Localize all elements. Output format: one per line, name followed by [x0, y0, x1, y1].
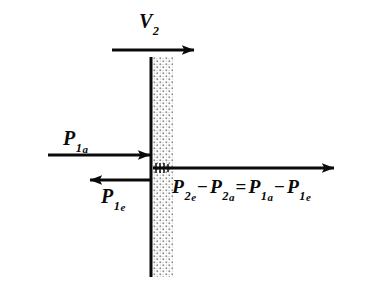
equation-minus-1: − — [195, 176, 210, 197]
reflected-momentum-sub2: e — [120, 201, 125, 213]
velocity-label: V2 — [139, 11, 159, 35]
equation-p2a-base: P — [210, 176, 222, 197]
equation-p1a-sub: 1 — [261, 189, 267, 203]
incident-momentum-label: P1a — [63, 128, 87, 152]
reflected-momentum-base: P — [101, 185, 113, 207]
equation-p2e-base: P — [172, 176, 184, 197]
wall-line — [150, 57, 153, 277]
incident-momentum-base: P — [63, 127, 75, 149]
equation-p1e-sub2: e — [306, 191, 311, 203]
velocity-label-base: V — [139, 10, 152, 32]
equation-minus-2: − — [272, 176, 287, 197]
diagram-canvas — [0, 0, 378, 287]
equation-p2e-sub: 2 — [184, 189, 190, 203]
equation-equals: = — [234, 176, 249, 197]
reflected-momentum-label: P1e — [101, 186, 124, 210]
equation-p1a-sub2: a — [268, 191, 274, 203]
equation-p2e-sub2: e — [191, 191, 196, 203]
equation-p2a-sub2: a — [229, 191, 235, 203]
velocity-label-sub: 2 — [153, 24, 159, 38]
momentum-equation: P2e−P2a=P1a−P1e — [172, 177, 310, 200]
equation-p1e-sub: 1 — [299, 189, 305, 203]
incident-momentum-sub2: a — [82, 143, 88, 155]
equation-p2a-sub: 2 — [222, 189, 228, 203]
equation-p1e-base: P — [287, 176, 299, 197]
momentum-diagram: V2 P1a P1e P2e−P2a=P1a−P1e — [0, 0, 378, 287]
equation-p1a-base: P — [248, 176, 260, 197]
